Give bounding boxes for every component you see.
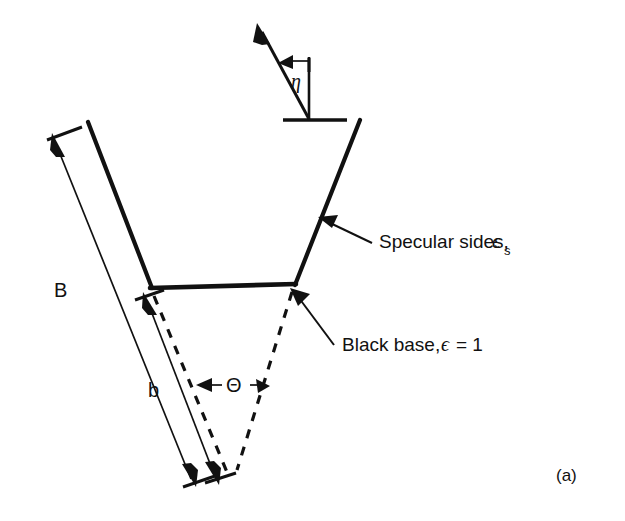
dashed-left-extension bbox=[154, 296, 229, 477]
panel-label: (a) bbox=[556, 466, 577, 485]
left-specular-wall bbox=[88, 122, 152, 288]
dashed-right-extension bbox=[237, 292, 292, 470]
black-base-epsilon: ϵ bbox=[441, 333, 450, 355]
theta-label: Θ bbox=[226, 374, 242, 396]
black-base-label: Black base, bbox=[342, 334, 440, 355]
specular-sides-label: Specular sides, bbox=[379, 231, 509, 252]
dimension-B-shaft bbox=[56, 144, 191, 479]
right-specular-wall bbox=[295, 120, 360, 285]
black-base-equals-one: = 1 bbox=[456, 334, 483, 355]
specular-sides-epsilon: ϵ bbox=[492, 230, 501, 252]
specular-sides-annotation: Specular sides, ϵ s bbox=[318, 215, 511, 258]
dimension-b-group: b bbox=[135, 290, 236, 485]
outgoing-ray-arrowhead bbox=[253, 23, 270, 45]
dimension-B-label: B bbox=[54, 279, 67, 301]
specular-sides-subscript: s bbox=[504, 243, 511, 258]
black-base-arrowhead bbox=[290, 288, 310, 306]
theta-left-arrowhead bbox=[196, 378, 212, 392]
dimension-B-group: B bbox=[47, 127, 215, 487]
cavity-diagram-svg: η Θ B b bbox=[0, 0, 625, 521]
black-base-annotation: Black base, ϵ = 1 bbox=[290, 288, 483, 355]
black-base-leader-line bbox=[299, 298, 334, 345]
black-base-line bbox=[150, 284, 296, 288]
dimension-b-top-tick bbox=[135, 290, 164, 300]
dimension-b-label: b bbox=[148, 379, 159, 401]
cavity-walls-group bbox=[88, 120, 360, 288]
virtual-apex-group bbox=[154, 292, 292, 477]
specular-sides-leader-line bbox=[328, 222, 372, 243]
eta-label: η bbox=[291, 70, 301, 93]
outgoing-ray-line bbox=[262, 32, 309, 119]
figure-container: η Θ B b bbox=[0, 0, 625, 521]
